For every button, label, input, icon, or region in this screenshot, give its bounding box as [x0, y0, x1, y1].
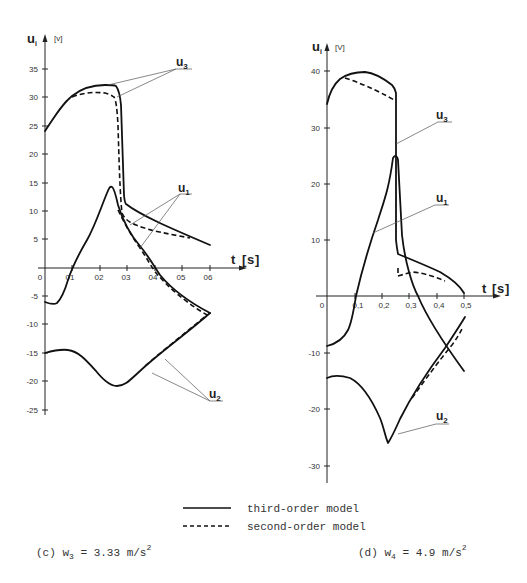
svg-text:-20: -20 — [26, 377, 38, 386]
y-axis-unit: [V] — [335, 43, 345, 52]
caption-d: (d) w4 = 4.9 m/s2 — [358, 543, 467, 561]
series-u2-second-order — [412, 329, 462, 398]
figure: ui [v] t [ s ] 35 30 25 20 15 10 5 -5 -1… — [0, 0, 527, 583]
svg-text:0,4: 0,4 — [433, 301, 445, 310]
label-u3: u3 — [108, 55, 192, 97]
series-u3-second-order — [345, 78, 445, 281]
y-axis-title: ui — [312, 39, 322, 55]
svg-text:-5: -5 — [31, 292, 39, 301]
svg-text:s: s — [497, 281, 504, 296]
x-axis-title: t [ s ] — [231, 252, 259, 267]
svg-text:]: ] — [505, 281, 509, 296]
svg-text:40: 40 — [311, 67, 320, 76]
svg-text:0,5: 0,5 — [460, 301, 472, 310]
svg-text:t: t — [231, 252, 236, 267]
svg-text:20: 20 — [311, 180, 320, 189]
svg-text:30: 30 — [29, 93, 38, 102]
svg-text:0,3: 0,3 — [405, 301, 417, 310]
svg-text:u3: u3 — [436, 108, 448, 124]
label-u2: u2 — [152, 359, 223, 403]
svg-text:30: 30 — [311, 124, 320, 133]
series-u3-third-order — [327, 72, 464, 293]
svg-text:20: 20 — [29, 150, 38, 159]
legend-solid-label: third-order model — [247, 503, 359, 515]
svg-text:-15: -15 — [26, 349, 38, 358]
svg-text:06: 06 — [204, 273, 213, 282]
svg-text:]: ] — [255, 252, 259, 267]
svg-text:02: 02 — [95, 273, 104, 282]
svg-text:t: t — [482, 281, 487, 296]
series-u3-second-order — [72, 92, 190, 238]
svg-text:10: 10 — [311, 236, 320, 245]
series-u2-second-order — [145, 315, 207, 366]
svg-text:0: 0 — [38, 273, 43, 282]
svg-text:s: s — [247, 252, 254, 267]
svg-text:10: 10 — [29, 207, 38, 216]
svg-text:-30: -30 — [308, 462, 320, 471]
x-axis-title: t [ s ] — [482, 281, 509, 296]
label-u3: u3 — [396, 108, 452, 144]
svg-text:03: 03 — [122, 273, 131, 282]
svg-text:35: 35 — [29, 65, 38, 74]
y-axis-unit: [v] — [54, 34, 62, 43]
label-u1: u1 — [130, 181, 192, 248]
y-axis-arrow-icon — [325, 43, 330, 51]
panel-c: ui [v] t [ s ] 35 30 25 20 15 10 5 -5 -1… — [26, 31, 259, 415]
label-u2: u2 — [398, 409, 449, 434]
series-u1-second-order — [118, 210, 207, 315]
y-axis-title: ui — [27, 31, 37, 47]
svg-text:u2: u2 — [209, 387, 221, 403]
svg-text:05: 05 — [177, 273, 186, 282]
svg-text:u2: u2 — [436, 409, 448, 425]
svg-text:25: 25 — [29, 122, 38, 131]
svg-text:0,2: 0,2 — [378, 301, 390, 310]
svg-text:0: 0 — [320, 301, 325, 310]
svg-text:u1: u1 — [436, 191, 448, 207]
legend-dashed-label: second-order model — [247, 521, 366, 533]
svg-text:15: 15 — [29, 179, 38, 188]
svg-text:5: 5 — [34, 235, 39, 244]
svg-text:u3: u3 — [176, 55, 188, 71]
panel-d: ui [V] t [ s ] 40 30 20 10 -10 -20 -30 0… — [308, 39, 509, 483]
legend: third-order model second-order model — [183, 503, 366, 533]
svg-text:-10: -10 — [308, 349, 320, 358]
caption-c: (c) w3 = 3.33 m/s2 — [36, 543, 151, 561]
svg-text:-10: -10 — [26, 320, 38, 329]
series-u2-third-order — [45, 313, 210, 386]
y-axis-arrow-icon — [43, 34, 48, 42]
svg-text:u1: u1 — [178, 181, 190, 197]
svg-text:-20: -20 — [308, 405, 320, 414]
svg-text:-25: -25 — [26, 406, 38, 415]
